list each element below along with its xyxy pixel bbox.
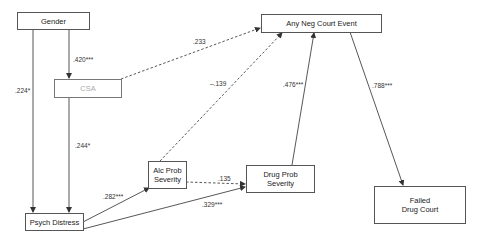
edge-csa-anyneg — [121, 28, 260, 79]
node-any-neg-court-event: Any Neg Court Event — [261, 14, 382, 33]
coef-alc-drug: .135 — [218, 175, 231, 182]
node-failed-drug-court: Failed Drug Court — [374, 186, 466, 224]
edge-alc-drug — [186, 182, 245, 184]
edge-alc-anyneg — [160, 33, 282, 161]
coef-psych-alc: .282*** — [103, 193, 123, 200]
coef-csa-anyneg: .233 — [193, 38, 206, 45]
coef-alc-anyneg: –.139 — [210, 80, 226, 87]
coef-gender-psych: .224* — [15, 87, 30, 94]
node-gender: Gender — [17, 12, 90, 30]
edge-drug-anyneg — [292, 33, 314, 165]
coef-csa-psych: .244* — [75, 142, 90, 149]
coef-anyneg-failed: .788*** — [372, 82, 392, 89]
node-csa: CSA — [54, 79, 122, 98]
edge-anyneg-failed — [350, 32, 403, 185]
coef-gender-csa: .420*** — [73, 56, 93, 63]
coef-drug-anyneg: .476*** — [283, 81, 303, 88]
node-psych-distress: Psych Distress — [25, 213, 84, 231]
coef-psych-drug: .329*** — [202, 201, 222, 208]
node-alc-prob-severity: Alc Prob Severity — [148, 161, 187, 189]
node-drug-prob-severity: Drug Prob Severity — [246, 165, 315, 193]
